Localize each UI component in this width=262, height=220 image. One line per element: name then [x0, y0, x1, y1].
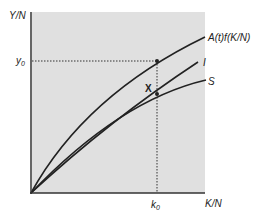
- steady-state-point: [155, 92, 159, 96]
- intersection-label: X: [145, 83, 152, 94]
- x-axis-label: K/N: [205, 198, 222, 209]
- y0-tick-label: y0: [15, 55, 25, 67]
- k0-tick-label: k0: [151, 199, 160, 211]
- growth-diagram: Y/N K/N y0 k0 A(t)f(K/N) I S X: [0, 0, 262, 220]
- investment-curve-label: I: [203, 57, 206, 68]
- y-axis-label: Y/N: [9, 10, 26, 21]
- production-curve-label: A(t)f(K/N): [207, 32, 250, 43]
- output-point: [155, 59, 159, 63]
- saving-curve-label: S: [208, 76, 215, 87]
